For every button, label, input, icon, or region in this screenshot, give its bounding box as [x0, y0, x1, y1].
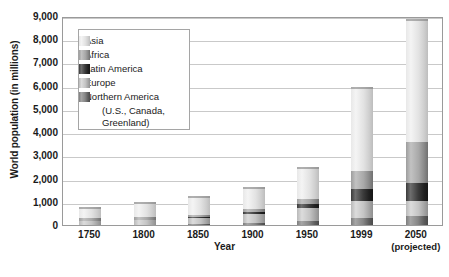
legend-swatch-asia — [79, 36, 90, 46]
bar-segment-europe-1850 — [188, 218, 210, 224]
legend-swatch-europe — [79, 78, 90, 88]
legend-swatch-latin — [79, 64, 90, 74]
bar-cap-2050 — [406, 19, 428, 21]
legend-item-asia[interactable]: Asia — [85, 35, 184, 49]
bar-segment-latin-2050 — [406, 183, 428, 202]
bar-segment-africa-1800 — [134, 217, 156, 219]
bar-segment-asia-1900 — [243, 187, 265, 209]
legend-item-africa[interactable]: Africa — [85, 49, 184, 63]
bar-1850[interactable] — [188, 196, 210, 225]
bar-segment-africa-1999 — [351, 171, 373, 189]
x-axis-title: Year — [0, 241, 449, 252]
bar-segment-asia-1950 — [297, 167, 319, 200]
bar-1800[interactable] — [134, 202, 156, 225]
legend-continuation-2: Greenland) — [102, 117, 184, 129]
bar-cap-1950 — [297, 167, 319, 169]
y-tick-3000: 3,000 — [2, 151, 58, 161]
bar-segment-africa-1950 — [297, 199, 319, 204]
y-tick-7000: 7,000 — [2, 58, 58, 68]
bar-segment-europe-1750 — [79, 221, 101, 225]
bar-cap-1999 — [351, 87, 373, 89]
bar-cap-1900 — [243, 187, 265, 189]
y-tick-5000: 5,000 — [2, 105, 58, 115]
bar-segment-namer-1999 — [351, 218, 373, 225]
y-tick-4000: 4,000 — [2, 128, 58, 138]
chart-legend: AsiaAfricaLatin AmericaEuropeNorthern Am… — [78, 29, 190, 130]
legend-continuation-1: (U.S., Canada, — [102, 105, 184, 117]
legend-label-latin: Latin America — [85, 63, 143, 75]
legend-label-namer: Northern America — [85, 91, 159, 103]
bar-1900[interactable] — [243, 187, 265, 225]
y-tick-2000: 2,000 — [2, 175, 58, 185]
y-tick-8000: 8,000 — [2, 35, 58, 45]
bar-segment-asia-1800 — [134, 202, 156, 217]
bar-cap-1750 — [79, 207, 101, 209]
legend-swatch-africa — [79, 50, 90, 60]
bar-segment-latin-1900 — [243, 212, 265, 214]
bar-segment-europe-2050 — [406, 201, 428, 216]
legend-item-namer[interactable]: Northern America — [85, 91, 184, 105]
bar-segment-namer-1900 — [243, 223, 265, 225]
bar-segment-africa-2050 — [406, 142, 428, 183]
bar-1950[interactable] — [297, 167, 319, 225]
bar-segment-europe-1800 — [134, 220, 156, 225]
bar-segment-europe-1999 — [351, 201, 373, 218]
bar-segment-asia-1999 — [351, 87, 373, 171]
bar-segment-latin-1999 — [351, 189, 373, 201]
bar-segment-africa-1850 — [188, 215, 210, 218]
y-tick-9000: 9,000 — [2, 12, 58, 22]
chart-figure: World population (in millions) 01,0002,0… — [0, 0, 449, 277]
bar-segment-asia-2050 — [406, 19, 428, 141]
bar-segment-asia-1850 — [188, 196, 210, 215]
bar-segment-africa-1750 — [79, 218, 101, 220]
bar-cap-1850 — [188, 196, 210, 198]
bar-segment-africa-1900 — [243, 209, 265, 212]
legend-swatch-namer — [79, 92, 90, 102]
bar-segment-latin-1950 — [297, 204, 319, 208]
legend-item-latin[interactable]: Latin America — [85, 63, 184, 77]
bar-segment-europe-1950 — [297, 208, 319, 221]
bar-1999[interactable] — [351, 87, 373, 225]
bar-segment-namer-2050 — [406, 216, 428, 225]
bar-2050[interactable] — [406, 19, 428, 225]
y-tick-6000: 6,000 — [2, 82, 58, 92]
y-tick-1000: 1,000 — [2, 198, 58, 208]
bar-1750[interactable] — [79, 207, 101, 225]
bar-segment-namer-1950 — [297, 221, 319, 225]
bar-cap-1800 — [134, 202, 156, 204]
legend-item-europe[interactable]: Europe — [85, 77, 184, 91]
bar-segment-europe-1900 — [243, 214, 265, 223]
